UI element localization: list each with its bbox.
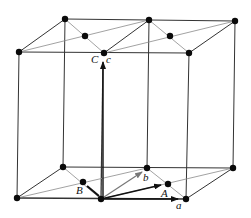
- label-c: c: [106, 53, 111, 65]
- vertical-edges: [17, 19, 235, 199]
- atoms: [14, 16, 238, 202]
- label-B: B: [76, 184, 83, 196]
- atom: [232, 18, 238, 24]
- vector-B: [87, 186, 99, 196]
- label-b: b: [143, 171, 149, 183]
- atom: [146, 17, 152, 23]
- atom: [186, 50, 192, 56]
- atom: [60, 164, 66, 170]
- vector-A: [101, 185, 161, 199]
- atom: [183, 196, 189, 202]
- lattice-svg: C c b B A a: [0, 0, 251, 218]
- atom: [16, 49, 22, 55]
- label-a: a: [176, 199, 182, 211]
- lattice-diagram: C c b B A a: [0, 0, 251, 218]
- atom: [82, 33, 88, 39]
- atom: [14, 195, 20, 201]
- label-A: A: [160, 187, 168, 199]
- atom: [98, 196, 104, 202]
- top-layer-edges: [19, 19, 235, 53]
- atom: [167, 33, 173, 39]
- atom: [62, 16, 68, 22]
- atom: [230, 165, 236, 171]
- label-C: C: [91, 53, 99, 65]
- vector-b: [101, 172, 142, 199]
